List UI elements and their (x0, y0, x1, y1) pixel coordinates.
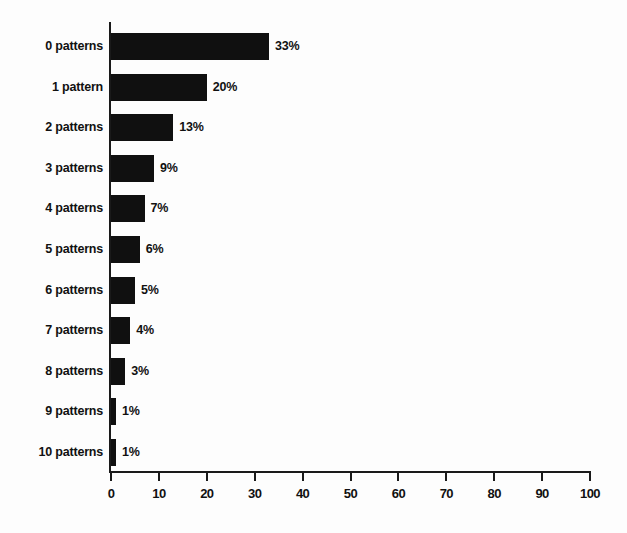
x-axis-tick (350, 473, 352, 481)
x-axis-tick-label: 70 (426, 486, 466, 501)
bar (111, 114, 173, 141)
bar-row: 9 patterns1% (0, 398, 627, 425)
x-axis-tick (110, 473, 112, 481)
bar (111, 195, 145, 222)
bar (111, 74, 207, 101)
bar-row: 5 patterns6% (0, 236, 627, 263)
bar-row: 6 patterns5% (0, 277, 627, 304)
category-label: 8 patterns (0, 358, 103, 385)
bar-row: 10 patterns1% (0, 439, 627, 466)
category-label: 1 pattern (0, 74, 103, 101)
category-label: 10 patterns (0, 439, 103, 466)
bar-row: 8 patterns3% (0, 358, 627, 385)
x-axis-tick-label: 50 (331, 486, 371, 501)
x-axis-tick-label: 40 (283, 486, 323, 501)
bar (111, 236, 140, 263)
bar-row: 3 patterns9% (0, 155, 627, 182)
bar-value-label: 33% (275, 33, 299, 60)
category-label: 0 patterns (0, 33, 103, 60)
category-label: 6 patterns (0, 277, 103, 304)
x-axis-tick-label: 0 (91, 486, 131, 501)
bar-row: 4 patterns7% (0, 195, 627, 222)
x-axis-tick-label: 60 (378, 486, 418, 501)
category-label: 3 patterns (0, 155, 103, 182)
bar-value-label: 1% (122, 398, 140, 425)
bar (111, 33, 269, 60)
x-axis-tick-label: 10 (139, 486, 179, 501)
bar-row: 1 pattern20% (0, 74, 627, 101)
x-axis-tick-label: 20 (187, 486, 227, 501)
bar-value-label: 6% (146, 236, 164, 263)
x-axis-tick (541, 473, 543, 481)
category-label: 5 patterns (0, 236, 103, 263)
x-axis-tick-label: 100 (570, 486, 610, 501)
bar (111, 277, 135, 304)
plot-area: 0 patterns33%1 pattern20%2 patterns13%3 … (0, 0, 627, 533)
x-axis-tick (254, 473, 256, 481)
x-axis-tick (397, 473, 399, 481)
bar-value-label: 9% (160, 155, 178, 182)
category-label: 7 patterns (0, 317, 103, 344)
x-axis-tick (158, 473, 160, 481)
x-axis-tick-label: 90 (522, 486, 562, 501)
bar-value-label: 7% (151, 195, 169, 222)
x-axis-tick (445, 473, 447, 481)
x-axis-tick (493, 473, 495, 481)
x-axis-tick-label: 30 (235, 486, 275, 501)
bar-row: 0 patterns33% (0, 33, 627, 60)
x-axis-tick-label: 80 (474, 486, 514, 501)
category-label: 4 patterns (0, 195, 103, 222)
bar-value-label: 3% (131, 358, 149, 385)
bar-value-label: 20% (213, 74, 237, 101)
category-label: 9 patterns (0, 398, 103, 425)
bar-value-label: 4% (136, 317, 154, 344)
bar-value-label: 5% (141, 277, 159, 304)
bar (111, 439, 116, 466)
bar-chart: 0 patterns33%1 pattern20%2 patterns13%3 … (0, 0, 627, 533)
bar-row: 2 patterns13% (0, 114, 627, 141)
bar-value-label: 1% (122, 439, 140, 466)
bar-value-label: 13% (179, 114, 203, 141)
x-axis-tick (206, 473, 208, 481)
x-axis-tick (302, 473, 304, 481)
category-label: 2 patterns (0, 114, 103, 141)
bar (111, 317, 130, 344)
bar (111, 358, 125, 385)
bar-row: 7 patterns4% (0, 317, 627, 344)
x-axis-tick (589, 473, 591, 481)
bar (111, 155, 154, 182)
bar (111, 398, 116, 425)
